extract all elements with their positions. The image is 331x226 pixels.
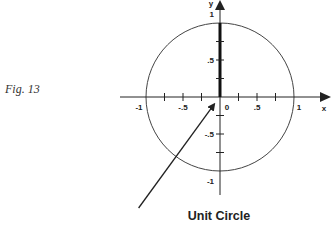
y-tick-label: .5 xyxy=(207,56,214,65)
x-tick-label: 0 xyxy=(225,103,230,112)
diagram-title: Unit Circle xyxy=(188,209,251,223)
x-axis-arrowhead xyxy=(320,92,331,102)
y-axis-arrowhead xyxy=(215,0,225,10)
y-tick-label: 1 xyxy=(210,10,215,19)
unit-circle-diagram: -1-.50.511.5-.5-1 x y Unit Circle xyxy=(0,0,331,226)
x-tick-label: .5 xyxy=(254,103,261,112)
x-axis-label: x xyxy=(322,104,327,113)
y-tick-label: -.5 xyxy=(205,130,215,139)
y-axis-label: y xyxy=(209,0,214,8)
x-tick-label: 1 xyxy=(297,103,302,112)
x-tick-label: -.5 xyxy=(178,103,188,112)
x-tick-label: -1 xyxy=(135,103,143,112)
y-tick-label: -1 xyxy=(207,177,215,186)
